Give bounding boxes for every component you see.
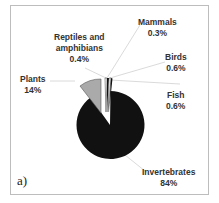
label-mammals: Mammals0.3% xyxy=(138,17,177,39)
label-invertebrates: Invertebrates84% xyxy=(142,167,195,189)
label-reptiles: Reptiles andamphibians0.4% xyxy=(54,32,105,65)
leader-fish xyxy=(110,80,180,84)
leader-birds xyxy=(110,62,165,78)
label-fish: Fish0.6% xyxy=(166,90,185,112)
slice-invertebrates xyxy=(76,91,144,159)
label-plants: Plants14% xyxy=(20,74,46,96)
leader-mammals xyxy=(107,25,140,78)
label-birds: Birds0.6% xyxy=(165,52,187,74)
leader-reptiles xyxy=(85,68,106,78)
slice-reptiles xyxy=(105,78,107,112)
panel-label: a) xyxy=(17,173,27,189)
